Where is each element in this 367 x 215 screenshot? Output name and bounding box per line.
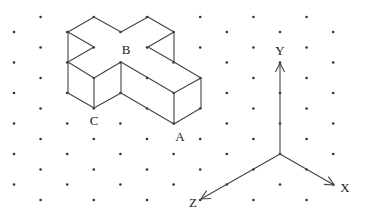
grid-dot — [39, 168, 42, 171]
grid-dot — [13, 92, 16, 95]
grid-dot — [39, 107, 42, 110]
shape-edge — [174, 78, 201, 93]
cross-prism-shape — [68, 17, 201, 124]
grid-dot — [66, 153, 69, 156]
coordinate-axes: Y X Z — [189, 43, 350, 210]
shape-edge — [68, 32, 94, 47]
grid-dot — [39, 46, 42, 49]
grid-dot — [146, 138, 149, 141]
grid-dot — [226, 122, 229, 125]
shape-edge — [68, 47, 94, 62]
shape-edge — [148, 47, 174, 62]
grid-dot — [172, 183, 175, 186]
grid-dot — [39, 199, 42, 202]
grid-dot — [332, 122, 335, 125]
grid-dot — [146, 199, 149, 202]
grid-dot — [226, 92, 229, 95]
grid-dot — [93, 138, 96, 141]
grid-dot — [66, 183, 69, 186]
y-axis-label: Y — [275, 43, 285, 58]
label-a: A — [175, 129, 185, 144]
grid-dot — [305, 77, 308, 80]
grid-dot — [39, 16, 42, 19]
shape-edge — [68, 93, 94, 108]
grid-dot — [332, 92, 335, 95]
grid-dot — [305, 107, 308, 110]
shape-edge — [174, 62, 201, 78]
grid-dot — [252, 199, 255, 202]
grid-dot — [332, 61, 335, 64]
shape-edge — [148, 17, 174, 32]
grid-dot — [13, 122, 16, 125]
shape-edge — [174, 108, 201, 124]
grid-dot — [13, 183, 16, 186]
shape-edge — [94, 62, 121, 78]
grid-dot — [252, 16, 255, 19]
x-axis — [280, 154, 334, 185]
z-axis — [201, 154, 280, 199]
grid-dot — [226, 31, 229, 34]
x-axis-label: X — [340, 180, 350, 195]
grid-dot — [199, 168, 202, 171]
label-b: B — [122, 42, 131, 57]
grid-dot — [13, 31, 16, 34]
shape-edge — [68, 62, 94, 78]
shape-edge — [68, 17, 94, 32]
shape-edge — [148, 32, 174, 47]
grid-dot — [119, 153, 122, 156]
shape-edge — [121, 93, 174, 124]
grid-dot — [66, 122, 69, 125]
grid-dot — [146, 168, 149, 171]
grid-dot — [226, 153, 229, 156]
label-c: C — [90, 113, 99, 128]
grid-dot — [279, 31, 282, 34]
grid-dot — [305, 138, 308, 141]
grid-dot — [13, 153, 16, 156]
grid-dot — [39, 138, 42, 141]
z-axis-label: Z — [189, 195, 197, 210]
shape-edge — [94, 17, 121, 32]
grid-dot — [252, 107, 255, 110]
grid-dot — [332, 31, 335, 34]
grid-dot — [252, 77, 255, 80]
grid-dot — [13, 61, 16, 64]
grid-dot — [93, 168, 96, 171]
grid-dot — [93, 199, 96, 202]
grid-dot — [199, 46, 202, 49]
grid-dot — [39, 77, 42, 80]
shape-edge — [121, 62, 174, 93]
grid-dot — [172, 153, 175, 156]
grid-dot — [252, 46, 255, 49]
grid-dot — [119, 183, 122, 186]
grid-dot — [252, 138, 255, 141]
shape-edge — [121, 17, 148, 32]
grid-dot — [199, 138, 202, 141]
grid-dot — [119, 122, 122, 125]
grid-dot — [279, 183, 282, 186]
vertex-labels: BCA — [90, 42, 186, 144]
grid-dot — [199, 16, 202, 19]
grid-dot — [226, 61, 229, 64]
grid-dot — [305, 46, 308, 49]
isometric-diagram: Y X Z BCA — [0, 0, 367, 215]
grid-dot — [332, 153, 335, 156]
grid-dot — [305, 199, 308, 202]
grid-dot — [305, 16, 308, 19]
shape-edge — [94, 93, 121, 108]
